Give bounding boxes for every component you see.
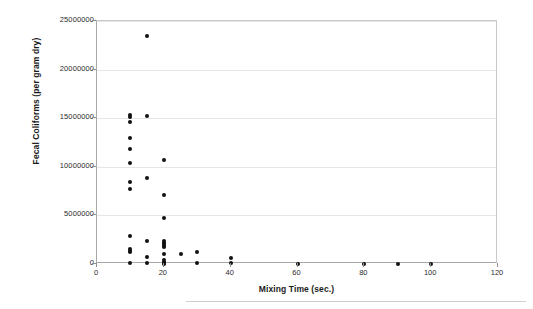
data-point [128, 136, 132, 140]
gridline [97, 21, 496, 22]
y-axis-title: Fecal Coliforms (per gram dry) [31, 1, 41, 201]
x-tick-label: 100 [410, 268, 450, 277]
x-tick-label: 120 [477, 268, 517, 277]
data-point [229, 256, 233, 260]
data-point [162, 252, 166, 256]
data-point [162, 193, 166, 197]
data-point [162, 158, 166, 162]
data-point [128, 234, 132, 238]
x-tick-label: 40 [210, 268, 250, 277]
x-tick-mark [363, 263, 364, 267]
data-point [128, 261, 132, 265]
data-point [128, 161, 132, 165]
x-tick-mark [230, 263, 231, 267]
scatter-chart-figure: 0500000010000000150000002000000025000000… [0, 0, 533, 309]
data-point [162, 245, 166, 249]
x-tick-mark [163, 263, 164, 267]
x-tick-mark [297, 263, 298, 267]
data-point [195, 250, 199, 254]
x-axis-title: Mixing Time (sec.) [96, 284, 497, 294]
footer-divider [186, 301, 526, 302]
y-tick-label: 5000000 [64, 210, 94, 218]
data-point [145, 261, 149, 265]
data-point [145, 34, 149, 38]
y-tick-label: 20000000 [60, 65, 94, 73]
gridline [97, 215, 496, 216]
data-point [145, 255, 149, 259]
y-tick-mark [92, 166, 96, 167]
x-tick-label: 0 [76, 268, 116, 277]
y-tick-mark [92, 69, 96, 70]
gridline [97, 167, 496, 168]
data-point [128, 250, 132, 254]
x-tick-mark [96, 263, 97, 267]
y-tick-mark [92, 117, 96, 118]
x-tick-label: 20 [143, 268, 183, 277]
data-point [396, 262, 400, 266]
y-tick-label: 10000000 [60, 162, 94, 170]
data-point [162, 216, 166, 220]
data-point [145, 176, 149, 180]
y-tick-label: 15000000 [60, 113, 94, 121]
x-tick-label: 80 [343, 268, 383, 277]
data-point [128, 120, 132, 124]
gridline [97, 70, 496, 71]
plot-area [96, 20, 497, 263]
data-point [128, 180, 132, 184]
y-tick-label: 25000000 [60, 16, 94, 24]
x-tick-mark [497, 263, 498, 267]
x-tick-label: 60 [277, 268, 317, 277]
x-tick-mark [430, 263, 431, 267]
data-point [128, 187, 132, 191]
y-tick-mark [92, 214, 96, 215]
data-point [195, 261, 199, 265]
gridline [97, 118, 496, 119]
y-tick-mark [92, 20, 96, 21]
data-point [145, 239, 149, 243]
data-point [179, 252, 183, 256]
data-point [128, 147, 132, 151]
